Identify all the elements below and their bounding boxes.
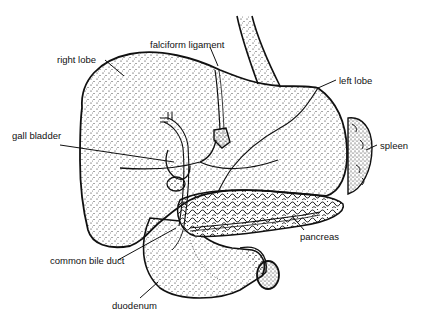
esophagus-tube — [237, 16, 280, 86]
label-spleen: spleen — [380, 141, 408, 151]
anatomy-diagram: right lobe falciform ligament left lobe … — [0, 0, 424, 321]
label-common-bile-duct: common bile duct — [50, 256, 124, 266]
label-right-lobe: right lobe — [57, 55, 96, 65]
label-duodenum: duodenum — [112, 301, 157, 311]
pancreas-shape — [178, 190, 344, 236]
label-gall-bladder: gall bladder — [12, 131, 61, 141]
label-falciform-ligament: falciform ligament — [150, 40, 224, 50]
label-left-lobe: left lobe — [339, 76, 372, 86]
spleen-shape — [348, 118, 372, 194]
label-pancreas: pancreas — [300, 232, 339, 242]
